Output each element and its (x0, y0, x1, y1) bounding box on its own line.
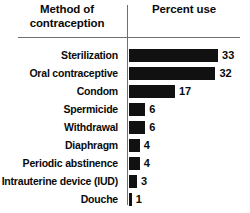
column-header-percent: Percent use (132, 3, 236, 17)
bar-track: 1 (129, 193, 250, 206)
bar-category-label: Condom (0, 84, 123, 99)
bar-category-label: Spermicide (0, 102, 123, 117)
bar-track: 4 (129, 157, 250, 170)
bar-value-label: 32 (219, 67, 231, 80)
bar-value-label: 1 (136, 193, 142, 206)
bar-value-label: 4 (144, 139, 150, 152)
chart-row: Intrauterine device (IUD)3 (0, 174, 250, 192)
bar (129, 103, 145, 116)
bar-track: 4 (129, 139, 250, 152)
bar-value-label: 6 (149, 103, 155, 116)
chart-rows: Sterilization33Oral contraceptive32Condo… (0, 48, 250, 210)
bar-value-label: 17 (179, 85, 191, 98)
bar-value-label: 4 (144, 157, 150, 170)
bar (129, 121, 145, 134)
contraception-percent-use-chart: Method of contraception Percent use Ster… (0, 0, 250, 213)
bar-category-label: Diaphragm (0, 138, 123, 153)
chart-row: Douche1 (0, 192, 250, 210)
bar-value-label: 3 (141, 175, 147, 188)
bar-track: 33 (129, 49, 250, 62)
header-divider-horizontal (18, 37, 240, 38)
chart-row: Diaphragm4 (0, 138, 250, 156)
bar-category-label: Oral contraceptive (0, 66, 123, 81)
bar-category-label: Sterilization (0, 48, 123, 63)
bar-track: 17 (129, 85, 250, 98)
chart-row: Periodic abstinence4 (0, 156, 250, 174)
bar-track: 32 (129, 67, 250, 80)
bar-track: 6 (129, 103, 250, 116)
bar-category-label: Periodic abstinence (0, 156, 123, 171)
bar (129, 139, 140, 152)
bar (129, 67, 215, 80)
chart-header: Method of contraception Percent use (0, 0, 250, 37)
bar-category-label: Douche (0, 192, 123, 207)
chart-row: Sterilization33 (0, 48, 250, 66)
chart-row: Condom17 (0, 84, 250, 102)
bar-track: 3 (129, 175, 250, 188)
bar (129, 157, 140, 170)
bar (129, 193, 132, 206)
bar (129, 85, 175, 98)
chart-row: Spermicide6 (0, 102, 250, 120)
bar-value-label: 6 (149, 121, 155, 134)
column-header-method: Method of contraception (8, 3, 126, 30)
bar-category-label: Withdrawal (0, 120, 123, 135)
bar-value-label: 33 (222, 49, 234, 62)
chart-row: Oral contraceptive32 (0, 66, 250, 84)
bar-category-label: Intrauterine device (IUD) (0, 174, 123, 189)
bar-track: 6 (129, 121, 250, 134)
bar (129, 49, 218, 62)
bar (129, 175, 137, 188)
chart-row: Withdrawal6 (0, 120, 250, 138)
